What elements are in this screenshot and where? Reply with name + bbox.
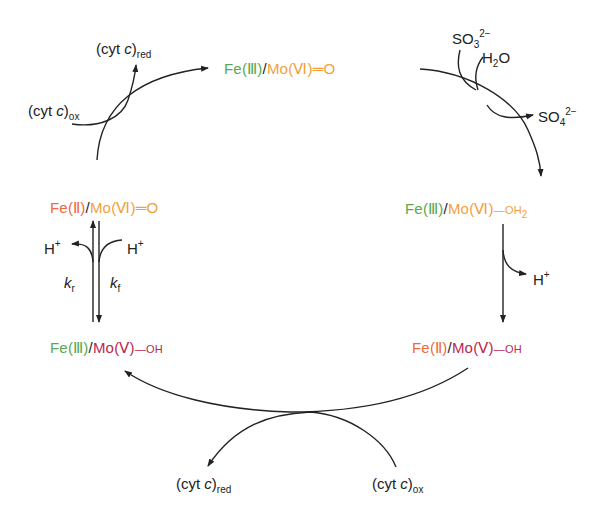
h-base: H [533, 271, 544, 288]
ligand: —OH [494, 343, 522, 355]
fe-oxidation: (Ⅱ) [430, 339, 448, 356]
h-sup: + [55, 238, 61, 249]
cyt-c-ox-top: (cyt c)ox [28, 102, 79, 126]
cyt-c-red-top: (cyt c)red [96, 40, 151, 64]
fe-label: Fe [224, 60, 242, 77]
h-base: H [44, 240, 55, 257]
fe-label: Fe [50, 339, 68, 356]
kf-sub: f [118, 283, 121, 294]
mo-oxidation: (Ⅴ) [473, 339, 494, 356]
h-sup: + [544, 269, 550, 280]
kr-sub: r [72, 283, 75, 294]
so3-sup: 2− [479, 28, 490, 39]
arrow-cyt-top [72, 65, 136, 125]
cyt-c: c [124, 40, 132, 57]
cyt-pre: (cyt [28, 102, 56, 119]
so3-sub: 3 [474, 39, 480, 50]
arrow-left-to-top [97, 68, 208, 160]
mo-oxidation: (Ⅵ) [469, 200, 494, 217]
product-h-plus-right: H+ [533, 266, 550, 289]
fe-label: Fe [50, 199, 68, 216]
state-right-upper: Fe(Ⅲ)/Mo(Ⅵ)—OH2 [405, 200, 528, 224]
arrow-so4-out [487, 105, 533, 118]
h2o-o: O [498, 49, 510, 66]
fe-oxidation: (Ⅱ) [68, 199, 86, 216]
cyt-c: c [400, 475, 408, 492]
mo-label: Mo [90, 199, 111, 216]
arrow-h-plus-left-in [99, 240, 122, 262]
arrow-cyt-bottom [208, 412, 396, 467]
state-left-upper: Fe(Ⅱ)/Mo(Ⅵ)═O [50, 199, 158, 217]
fe-oxidation: (Ⅲ) [242, 60, 263, 77]
rate-kf: kf [110, 274, 120, 298]
cyt-pre: (cyt [176, 475, 204, 492]
cyt-c: c [56, 102, 64, 119]
h-plus-left-in: H+ [127, 235, 144, 258]
cyt-sub: ox [413, 484, 424, 495]
ligand: ═O [136, 199, 159, 216]
arrow-bottom-arc [125, 368, 468, 412]
fe-oxidation: (Ⅲ) [68, 339, 89, 356]
cyt-sub: ox [69, 111, 80, 122]
mo-label: Mo [93, 339, 114, 356]
h2o-h: H [482, 49, 493, 66]
mo-oxidation: (Ⅴ) [114, 339, 135, 356]
reagent-h2o: H2O [482, 49, 510, 73]
cyt-pre: (cyt [372, 475, 400, 492]
ligand: —OH [494, 204, 522, 216]
state-left-lower: Fe(Ⅲ)/Mo(Ⅴ)—OH [50, 339, 163, 358]
kf-k: k [110, 274, 118, 291]
fe-label: Fe [412, 339, 430, 356]
mo-label: Mo [267, 60, 288, 77]
cyt-c: c [204, 475, 212, 492]
ligand: ═O [313, 60, 336, 77]
h-sup: + [138, 238, 144, 249]
kr-k: k [64, 274, 72, 291]
so4-sub: 4 [560, 117, 566, 128]
mo-label: Mo [448, 200, 469, 217]
cyt-pre: (cyt [96, 40, 124, 57]
h-base: H [127, 240, 138, 257]
arrow-h-plus-left-out [72, 244, 93, 262]
so3-base: SO [452, 30, 474, 47]
fe-label: Fe [405, 200, 423, 217]
mo-oxidation: (Ⅵ) [111, 199, 136, 216]
mo-label: Mo [452, 339, 473, 356]
so4-sup: 2− [565, 106, 576, 117]
ligand: —OH [135, 343, 163, 355]
cyt-c-ox-bottom: (cyt c)ox [372, 475, 423, 499]
mo-oxidation: (Ⅵ) [288, 60, 313, 77]
cyt-sub: red [137, 49, 151, 60]
ligand-subscript: 2 [522, 209, 528, 220]
cyt-sub: red [217, 484, 231, 495]
state-right-lower: Fe(Ⅱ)/Mo(Ⅴ)—OH [412, 339, 522, 358]
state-top: Fe(Ⅲ)/Mo(Ⅵ)═O [224, 60, 335, 78]
rate-kr: kr [64, 274, 75, 298]
product-so4: SO42− [538, 103, 577, 132]
arrow-so3-in [458, 50, 476, 90]
arrow-top-to-right [420, 69, 541, 176]
cyt-c-red-bottom: (cyt c)red [176, 475, 231, 499]
fe-oxidation: (Ⅲ) [423, 200, 444, 217]
so4-base: SO [538, 108, 560, 125]
h-plus-left-out: H+ [44, 235, 61, 258]
arrow-h-plus-out [503, 250, 526, 274]
